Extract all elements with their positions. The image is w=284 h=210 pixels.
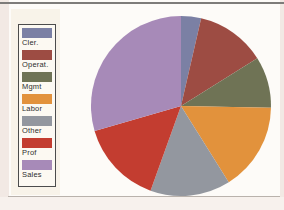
legend-item-label: Sales [22, 170, 55, 180]
legend-item-prof: Prof [22, 138, 55, 158]
pie-chart [89, 14, 273, 198]
legend-item-label: Labor [22, 104, 55, 114]
legend-item-labor: Labor [22, 94, 55, 114]
legend-swatch-cler [22, 28, 52, 38]
legend: Cler.Operat.MgmtLaborOtherProfSales [18, 24, 56, 187]
page-margin-left [0, 0, 9, 210]
legend-swatch-mgmt [22, 72, 52, 82]
figure-pie-chart: Cler.Operat.MgmtLaborOtherProfSales [0, 0, 284, 210]
page-margin-bottom [0, 197, 284, 210]
legend-item-label: Other [22, 126, 55, 136]
legend-swatch-operat [22, 50, 52, 60]
legend-item-label: Operat. [22, 60, 55, 70]
legend-swatch-sales [22, 160, 52, 170]
legend-item-mgmt: Mgmt [22, 72, 55, 92]
legend-item-label: Mgmt [22, 82, 55, 92]
legend-swatch-labor [22, 94, 52, 104]
legend-item-operat: Operat. [22, 50, 55, 70]
legend-swatch-other [22, 116, 52, 126]
page-margin-right [280, 0, 284, 210]
legend-swatch-prof [22, 138, 52, 148]
legend-item-cler: Cler. [22, 28, 55, 48]
legend-item-sales: Sales [22, 160, 55, 180]
top-border-line [0, 2, 284, 4]
legend-item-label: Prof [22, 148, 55, 158]
pie-chart-svg [89, 14, 273, 198]
legend-item-other: Other [22, 116, 55, 136]
legend-item-label: Cler. [22, 38, 55, 48]
